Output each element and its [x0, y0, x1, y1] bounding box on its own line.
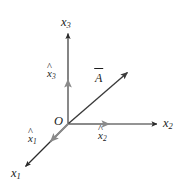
hat-accent-icon: ^ — [98, 124, 103, 134]
coordinate-system-figure: x3 x2 x1 ^x3 ^x2 ^x1 A O — [0, 0, 182, 187]
x1-hat-label: ^x1 — [28, 133, 37, 144]
x1-axis-label: x1 — [11, 167, 21, 180]
x1-hat-label-subscript: 1 — [33, 137, 37, 146]
x3-axis-label-letter: x — [61, 15, 67, 29]
x3-hat-label-subscript: 3 — [52, 72, 56, 81]
x2-axis-label-letter: x — [163, 116, 169, 130]
vector-a-label-letter: A — [95, 71, 102, 85]
hat-accent-icon: ^ — [28, 127, 33, 137]
hat-accent-icon: ^ — [47, 62, 52, 72]
vector-a-label: A — [95, 72, 102, 84]
x3-axis-label-subscript: 3 — [67, 20, 71, 30]
x1-axis-label-letter: x — [11, 166, 17, 180]
x2-hat-label: ^x2 — [98, 130, 107, 141]
x3-axis-label: x3 — [61, 16, 71, 29]
origin-label: O — [54, 115, 63, 128]
x2-axis-label-subscript: 2 — [169, 121, 173, 131]
x3-hat-label: ^x3 — [47, 68, 56, 79]
overbar-accent-icon — [94, 68, 104, 69]
x1-axis-label-subscript: 1 — [17, 171, 21, 181]
x2-axis-label: x2 — [163, 117, 173, 130]
figure-canvas — [0, 0, 182, 187]
x2-hat-label-subscript: 2 — [103, 134, 107, 143]
